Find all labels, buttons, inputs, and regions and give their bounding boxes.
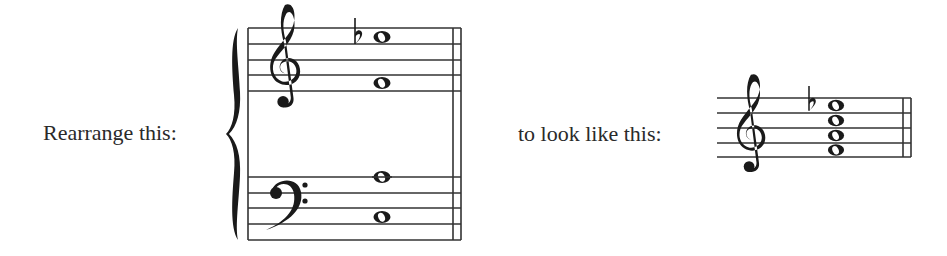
- chord-note-c5: [828, 115, 844, 126]
- note-treble-f4: [374, 77, 391, 89]
- chord-note-eflat5: [828, 100, 844, 111]
- grand-staff: [226, 4, 461, 240]
- target-staff: [717, 74, 911, 172]
- treble-clef-icon: [270, 4, 300, 107]
- flat-sign-icon: [355, 18, 362, 44]
- chord-note-f4: [828, 144, 844, 155]
- note-bass-c3: [374, 211, 391, 223]
- notation-canvas: [0, 0, 947, 256]
- bass-clef-icon: [266, 181, 308, 231]
- brace-icon: [226, 28, 240, 240]
- bass-staff-lines: [248, 177, 461, 240]
- note-treble-eflat5: [374, 31, 391, 43]
- chord-note-a4: [828, 130, 844, 141]
